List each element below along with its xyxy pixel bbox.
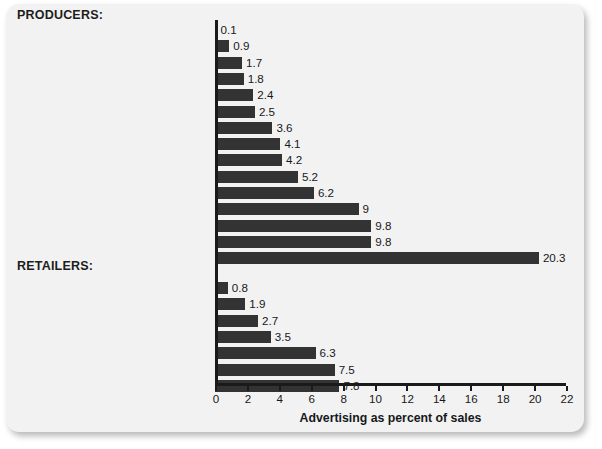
bar-value-label: 4.2	[286, 152, 302, 168]
bar	[215, 236, 371, 248]
x-tick	[215, 386, 217, 391]
bar-value-label: 3.5	[275, 329, 291, 345]
x-tick	[311, 386, 313, 391]
x-tick-label: 16	[456, 392, 486, 405]
x-tick	[502, 386, 504, 391]
bar	[215, 331, 271, 343]
x-tick	[279, 386, 281, 391]
x-tick	[566, 386, 568, 391]
bar-value-label: 0.9	[233, 38, 249, 54]
bar-value-label: 4.1	[284, 136, 300, 152]
bar-value-label: 20.3	[543, 250, 566, 266]
bar-value-label: 6.3	[320, 345, 336, 361]
bar	[215, 220, 371, 232]
bar	[215, 203, 359, 215]
bar-value-label: 1.7	[246, 55, 262, 71]
x-tick-label: 0	[201, 392, 231, 405]
x-tick	[343, 386, 345, 391]
x-tick-label: 20	[520, 392, 550, 405]
bar	[215, 347, 316, 359]
bar	[215, 315, 258, 327]
bar	[215, 364, 335, 376]
bar	[215, 298, 245, 310]
x-tick	[406, 386, 408, 391]
section-header-producers: PRODUCERS:	[17, 8, 103, 22]
section-header-retailers: RETAILERS:	[17, 259, 93, 273]
bar	[215, 187, 314, 199]
x-tick-label: 18	[488, 392, 518, 405]
bar	[215, 171, 298, 183]
bar	[215, 73, 244, 85]
bar-value-label: 0.1	[221, 22, 237, 38]
bar	[215, 57, 242, 69]
bar	[215, 252, 539, 264]
bar-value-label: 2.7	[262, 313, 278, 329]
x-tick	[438, 386, 440, 391]
bar-value-label: 1.9	[249, 296, 265, 312]
x-tick-label: 14	[424, 392, 454, 405]
x-tick	[534, 386, 536, 391]
bar-value-label: 0.8	[232, 280, 248, 296]
bar-value-label: 2.4	[257, 87, 273, 103]
x-axis-title: Advertising as percent of sales	[215, 411, 566, 425]
bar	[215, 122, 272, 134]
bar	[215, 138, 280, 150]
x-axis-line	[215, 383, 566, 386]
bar-value-label: 1.8	[248, 71, 264, 87]
x-tick-label: 8	[329, 392, 359, 405]
x-tick-label: 4	[265, 392, 295, 405]
bar	[215, 89, 253, 101]
bar-value-label: 9	[363, 201, 369, 217]
bar	[215, 106, 255, 118]
bar-value-label: 9.8	[375, 218, 391, 234]
bar-value-label: 9.8	[375, 234, 391, 250]
bar-value-label: 3.6	[276, 120, 292, 136]
x-tick	[247, 386, 249, 391]
bar-value-label: 2.5	[259, 104, 275, 120]
bar	[215, 154, 282, 166]
bar-value-label: 7.5	[339, 362, 355, 378]
bar-value-label: 6.2	[318, 185, 334, 201]
x-tick-label: 10	[361, 392, 391, 405]
bar-chart: PRODUCERS: RETAILERS: Petroleum refining…	[0, 0, 602, 449]
x-tick-label: 22	[552, 392, 582, 405]
bar-value-label: 5.2	[302, 169, 318, 185]
x-tick-label: 6	[297, 392, 327, 405]
x-tick-label: 2	[233, 392, 263, 405]
chart-page: PRODUCERS: RETAILERS: Petroleum refining…	[0, 0, 602, 449]
y-axis-line	[215, 20, 218, 386]
x-tick	[375, 386, 377, 391]
x-tick-label: 12	[392, 392, 422, 405]
x-tick	[470, 386, 472, 391]
